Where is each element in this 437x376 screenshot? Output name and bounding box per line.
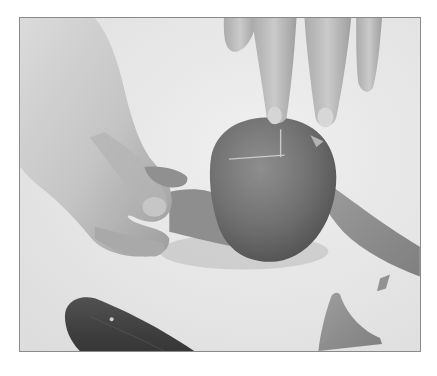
photo-frame: Grayscale photograph of hands peeling th…: [19, 17, 421, 352]
grain-overlay: [20, 18, 420, 351]
photo-image: [20, 18, 420, 351]
